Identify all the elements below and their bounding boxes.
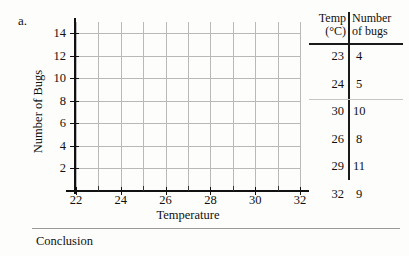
x-axis-minor-tick <box>143 186 144 191</box>
gridline-vertical <box>278 22 279 191</box>
table-cell-bugs: 5 <box>353 78 380 91</box>
y-axis-tick-label: 2 <box>44 162 66 175</box>
table-vertical-rule <box>348 12 350 180</box>
plot-area <box>76 22 300 191</box>
table-cell-temp: 24 <box>306 78 344 91</box>
y-axis-tick-label: 14 <box>44 27 66 40</box>
table-cell-bugs: 4 <box>353 50 380 63</box>
x-axis-tick-label: 22 <box>64 194 88 207</box>
gridline-vertical <box>143 22 144 191</box>
table-cell-temp: 30 <box>306 105 344 118</box>
y-axis-tick <box>70 123 79 124</box>
y-axis-tick <box>70 78 79 79</box>
table-header-bugs-line2: of bugs <box>352 25 388 38</box>
table-cell-bugs: 8 <box>353 133 380 146</box>
gridline-vertical <box>255 22 256 191</box>
x-axis-tick-label: 24 <box>109 194 133 207</box>
y-axis-tick-label: 12 <box>44 50 66 63</box>
table-cell-temp: 23 <box>306 50 344 63</box>
y-axis-tick-label: 8 <box>44 95 66 108</box>
y-axis-tick <box>70 33 79 34</box>
data-table: Temp (°C) Number of bugs 234245301026829… <box>306 10 406 185</box>
gridline-vertical <box>98 22 99 191</box>
table-cell-bugs: 9 <box>353 188 380 201</box>
table-cell-temp: 32 <box>306 188 344 201</box>
gridline-vertical <box>76 22 77 191</box>
scatter-plot-chart: Number of Bugs Temperature 2468101214222… <box>0 0 310 215</box>
gridline-horizontal <box>76 168 300 169</box>
conclusion-label: Conclusion <box>36 234 93 249</box>
x-axis-minor-tick <box>278 186 279 191</box>
worksheet-page: a. Number of Bugs Temperature 2468101214… <box>0 0 409 256</box>
gridline-vertical <box>300 22 301 191</box>
y-axis-tick <box>70 146 79 147</box>
gridline-horizontal <box>76 33 300 34</box>
x-axis-tick-label: 26 <box>154 194 178 207</box>
table-header-temp-line1: Temp <box>306 12 346 25</box>
table-mid-rule <box>309 99 403 100</box>
gridline-vertical <box>233 22 234 191</box>
x-axis-title: Temperature <box>76 208 300 223</box>
x-axis-minor-tick <box>233 186 234 191</box>
y-axis-tick-label: 10 <box>44 72 66 85</box>
table-cell-bugs: 10 <box>353 105 377 118</box>
table-cell-temp: 29 <box>306 160 344 173</box>
x-axis-tick-label: 30 <box>243 194 267 207</box>
conclusion-divider <box>32 228 400 229</box>
gridline-horizontal <box>76 101 300 102</box>
y-axis-tick <box>70 56 79 57</box>
x-axis-tick-label: 28 <box>198 194 222 207</box>
x-axis-minor-tick <box>98 186 99 191</box>
y-axis-tick <box>70 101 79 102</box>
gridline-horizontal <box>76 123 300 124</box>
y-axis-tick-label: 6 <box>44 117 66 130</box>
table-cell-bugs: 11 <box>353 160 377 173</box>
gridline-vertical <box>210 22 211 191</box>
y-axis-tick <box>70 168 79 169</box>
x-axis-minor-tick <box>188 186 189 191</box>
gridline-horizontal <box>76 56 300 57</box>
gridline-vertical <box>166 22 167 191</box>
gridline-vertical <box>121 22 122 191</box>
y-axis-tick-label: 4 <box>44 140 66 153</box>
table-header-bugs-line1: Number <box>352 12 391 25</box>
table-header-temp-line2: (°C) <box>306 25 346 38</box>
table-cell-temp: 26 <box>306 133 344 146</box>
gridline-horizontal <box>76 146 300 147</box>
table-header-rule <box>309 43 403 45</box>
gridline-horizontal <box>76 78 300 79</box>
gridline-vertical <box>188 22 189 191</box>
